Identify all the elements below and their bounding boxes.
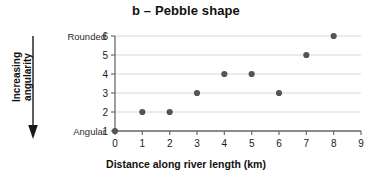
data-point <box>249 71 255 77</box>
gridlines <box>115 36 361 131</box>
x-tick-label: 0 <box>108 138 122 149</box>
data-point <box>276 90 282 96</box>
x-axis-title: Distance along river length (km) <box>0 158 372 170</box>
x-tick-label: 5 <box>245 138 259 149</box>
y-tick-label: 4 <box>94 69 108 80</box>
x-tick-label: 2 <box>163 138 177 149</box>
y-tick-label: 1 <box>94 126 108 137</box>
y-tick-label: 6 <box>94 31 108 42</box>
x-tick-label: 9 <box>354 138 368 149</box>
y-tick-label: 5 <box>94 50 108 61</box>
y-tick-label: 2 <box>94 107 108 118</box>
x-tick-label: 7 <box>299 138 313 149</box>
axis-ticks <box>111 36 361 135</box>
y-tick-label: 3 <box>94 88 108 99</box>
data-point <box>194 90 200 96</box>
x-tick-label: 1 <box>135 138 149 149</box>
x-tick-label: 4 <box>217 138 231 149</box>
x-tick-label: 3 <box>190 138 204 149</box>
x-tick-label: 8 <box>327 138 341 149</box>
x-tick-label: 6 <box>272 138 286 149</box>
data-point <box>331 33 337 39</box>
data-point <box>221 71 227 77</box>
data-point <box>139 109 145 115</box>
data-point <box>167 109 173 115</box>
figure-pebble-shape: b – Pebble shape Increasing angularity R… <box>0 0 372 185</box>
data-points <box>112 33 337 134</box>
data-point <box>112 128 118 134</box>
data-point <box>303 52 309 58</box>
